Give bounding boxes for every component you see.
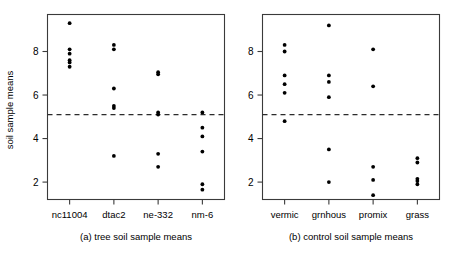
figure-container: soil sample means 2468 nc11004dtac2ne-33… <box>0 0 456 257</box>
caption-right: (b) control soil sample means <box>289 231 413 242</box>
data-point <box>327 23 331 27</box>
data-point <box>371 165 375 169</box>
scatter-plot-figure: soil sample means 2468 nc11004dtac2ne-33… <box>0 0 456 257</box>
data-point <box>415 182 419 186</box>
data-point <box>68 21 72 25</box>
y-tick-label: 8 <box>33 46 39 57</box>
data-point <box>112 154 116 158</box>
tree-panel: nc11004dtac2ne-332nm-6 (a) tree soil sam… <box>48 15 225 243</box>
data-point <box>200 134 204 138</box>
data-point <box>283 91 287 95</box>
x-category-label: ne-332 <box>143 209 173 220</box>
data-point <box>327 180 331 184</box>
plot-frame-left <box>48 15 225 200</box>
data-point <box>156 152 160 156</box>
data-point <box>112 87 116 91</box>
y-axis-title: soil sample means <box>4 70 15 149</box>
x-axis-ticks-right <box>285 200 418 205</box>
data-point <box>371 84 375 88</box>
data-point <box>371 193 375 197</box>
data-points-right <box>283 23 420 197</box>
x-category-label: vermic <box>271 209 299 220</box>
y-axis-ticks-left <box>43 52 48 183</box>
data-point <box>327 74 331 78</box>
data-point <box>283 50 287 54</box>
data-point <box>327 148 331 152</box>
data-point <box>68 52 72 56</box>
data-point <box>68 60 72 64</box>
caption-left: (a) tree soil sample means <box>80 231 192 242</box>
data-point <box>112 106 116 110</box>
data-point <box>283 74 287 78</box>
data-point <box>415 161 419 165</box>
data-point <box>371 178 375 182</box>
data-point <box>200 111 204 115</box>
y-axis-ticklabels-right: 2468 <box>248 46 254 188</box>
data-point <box>112 43 116 47</box>
data-point <box>200 150 204 154</box>
y-tick-label: 4 <box>33 133 39 144</box>
y-axis-ticks-right <box>258 52 263 183</box>
data-point <box>156 72 160 76</box>
x-category-label: nm-6 <box>192 209 214 220</box>
data-point <box>283 119 287 123</box>
control-panel: 2468 vermicgrnhouspromixgrass (b) contro… <box>248 15 440 243</box>
y-tick-label: 2 <box>33 177 39 188</box>
x-category-label: grass <box>406 209 429 220</box>
x-category-label: dtac2 <box>102 209 125 220</box>
y-tick-label: 4 <box>248 133 254 144</box>
y-tick-label: 2 <box>248 177 254 188</box>
data-points-left <box>68 21 205 191</box>
data-point <box>156 113 160 117</box>
data-point <box>200 126 204 130</box>
y-axis-group: soil sample means 2468 <box>4 46 48 188</box>
plot-frame-right <box>263 15 440 200</box>
x-axis-category-labels-left: nc11004dtac2ne-332nm-6 <box>52 209 213 220</box>
y-tick-label: 8 <box>248 46 254 57</box>
data-point <box>415 156 419 160</box>
x-category-label: nc11004 <box>52 209 88 220</box>
data-point <box>68 47 72 51</box>
x-axis-ticks-left <box>70 200 203 205</box>
y-tick-label: 6 <box>248 90 254 101</box>
y-axis-ticklabels-left: 2468 <box>33 46 39 188</box>
data-point <box>327 95 331 99</box>
data-point <box>200 182 204 186</box>
x-category-label: grnhous <box>312 209 347 220</box>
data-point <box>200 188 204 192</box>
x-category-label: promix <box>359 209 388 220</box>
data-point <box>283 82 287 86</box>
data-point <box>327 80 331 84</box>
data-point <box>112 47 116 51</box>
data-point <box>371 47 375 51</box>
x-axis-category-labels-right: vermicgrnhouspromixgrass <box>271 209 430 220</box>
y-tick-label: 6 <box>33 90 39 101</box>
data-point <box>156 165 160 169</box>
data-point <box>415 179 419 183</box>
data-point <box>283 43 287 47</box>
data-point <box>68 65 72 69</box>
